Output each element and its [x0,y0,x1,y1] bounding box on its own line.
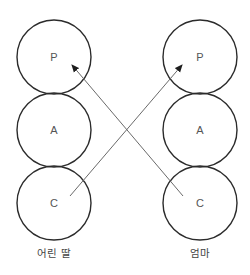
left-child-label: C [50,197,58,209]
left-column: P A C 어린 딸 [17,20,91,259]
left-adult-label: A [50,124,58,136]
left-parent-label: P [50,51,57,63]
right-column: P A C 엄마 [163,20,237,259]
arrow-right-child-to-left-parent [72,65,183,196]
right-caption: 엄마 [190,247,210,259]
arrow-left-child-to-right-parent [70,65,182,196]
left-caption: 어린 딸 [37,247,70,259]
right-adult-label: A [196,124,204,136]
right-child-label: C [196,197,204,209]
right-parent-label: P [196,51,203,63]
diagram-canvas: P A C 어린 딸 P A C 엄마 [0,0,250,275]
